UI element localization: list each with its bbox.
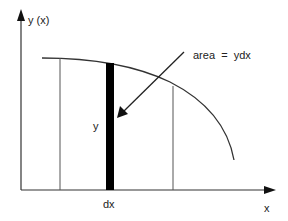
x-axis-label: x bbox=[264, 202, 270, 214]
strip-dx bbox=[106, 63, 114, 190]
function-curve bbox=[42, 58, 234, 160]
x-axis-arrowhead-icon bbox=[264, 186, 276, 194]
y-axis-arrowhead-icon bbox=[17, 9, 25, 21]
annotation-arrow bbox=[124, 52, 184, 111]
y-axis-label: y (x) bbox=[28, 14, 49, 26]
area-diagram: y (x) x y dx area = ydx bbox=[0, 0, 288, 221]
strip-height-label: y bbox=[93, 120, 99, 132]
strip-width-label: dx bbox=[103, 198, 115, 210]
area-annotation: area = ydx bbox=[193, 49, 251, 61]
